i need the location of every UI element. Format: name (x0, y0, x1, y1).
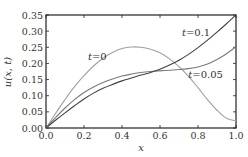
y-tick-label: 0.10 (22, 90, 43, 101)
curve-annotation: t=0.1 (182, 27, 210, 38)
x-axis-label: x (138, 142, 144, 153)
x-tick-label: 0.8 (190, 130, 205, 141)
y-axis-label: u(x, t) (2, 57, 13, 87)
y-tick-label: 0.15 (22, 74, 43, 85)
series-line-t-0 (46, 47, 236, 128)
x-tick-label: 0.4 (114, 130, 129, 141)
curve-annotation: t=0 (88, 51, 107, 62)
x-tick-label: 0.6 (152, 130, 167, 141)
y-tick-label: 0.30 (22, 26, 43, 37)
y-tick-label: 0.05 (22, 106, 43, 117)
curve-annotations: t=0t=0.1t=0.05 (88, 27, 223, 80)
y-tick-label: 0.35 (22, 10, 43, 21)
x-tick-label: 1.0 (228, 130, 243, 141)
y-tick-label: 0.00 (22, 123, 43, 134)
line-chart: 0.00.20.40.60.81.00.000.050.100.150.200.… (0, 0, 248, 157)
y-tick-label: 0.25 (22, 42, 43, 53)
x-tick-label: 0.2 (76, 130, 91, 141)
curve-annotation: t=0.05 (188, 69, 223, 80)
y-tick-label: 0.20 (22, 58, 43, 69)
